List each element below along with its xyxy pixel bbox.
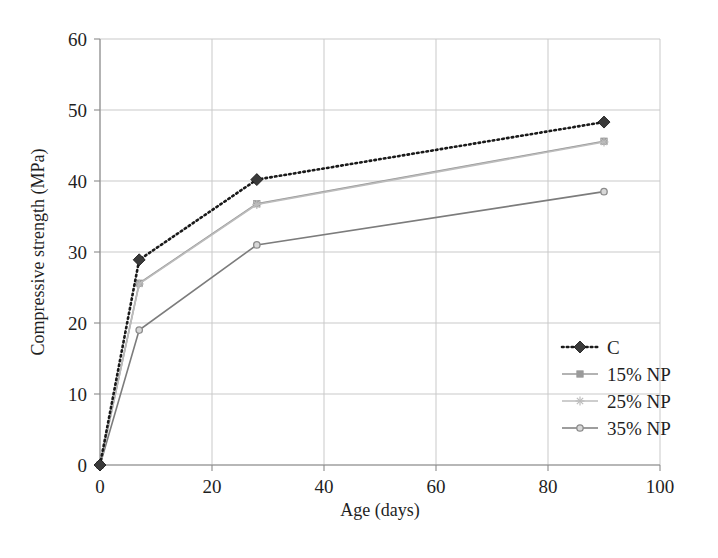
y-tick-label: 0 xyxy=(78,455,88,476)
chart-container: 0102030405060 020406080100 Age (days) Co… xyxy=(0,0,718,558)
data-point-marker xyxy=(254,242,260,248)
legend-label: C xyxy=(607,337,620,358)
legend-marker-sample xyxy=(577,371,583,377)
data-point-marker xyxy=(601,188,607,194)
x-tick-label: 100 xyxy=(646,476,675,497)
y-tick-label: 10 xyxy=(68,384,87,405)
data-point-marker xyxy=(252,200,261,209)
legend-label: 35% NP xyxy=(607,418,671,439)
x-tick-label: 80 xyxy=(539,476,558,497)
legend-label: 15% NP xyxy=(607,364,671,385)
compressive-strength-line-chart: 0102030405060 020406080100 Age (days) Co… xyxy=(0,0,718,558)
chart-background xyxy=(0,0,718,558)
y-tick-label: 60 xyxy=(68,29,87,50)
legend-label: 25% NP xyxy=(607,391,671,412)
data-point-marker xyxy=(600,137,609,146)
x-tick-label: 0 xyxy=(95,476,105,497)
x-axis-title: Age (days) xyxy=(340,500,419,521)
legend-marker-sample xyxy=(577,425,583,431)
y-tick-label: 40 xyxy=(68,171,87,192)
x-tick-label: 40 xyxy=(315,476,334,497)
data-point-marker xyxy=(136,327,142,333)
y-tick-label: 50 xyxy=(68,100,87,121)
x-tick-label: 20 xyxy=(203,476,222,497)
y-axis-title: Compressive strength (MPa) xyxy=(28,149,49,356)
legend-marker-sample xyxy=(576,397,585,406)
x-tick-label: 60 xyxy=(427,476,446,497)
y-tick-label: 20 xyxy=(68,313,87,334)
y-tick-label: 30 xyxy=(68,242,87,263)
